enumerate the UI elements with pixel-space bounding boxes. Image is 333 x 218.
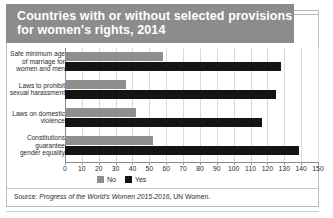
gridline (318, 48, 319, 162)
x-axis-tick-label: 150 (308, 165, 328, 172)
chart-title-line-1: Countries with or without selected provi… (17, 9, 285, 23)
legend-item-no[interactable]: No (97, 176, 116, 183)
source-suffix: , UN Women. (169, 193, 210, 200)
chart-title-line-2: for women's rights, 2014 (17, 23, 165, 37)
source-title: Progress of the World's Women 2015-2016 (39, 193, 169, 200)
category-label: Constitutionsguaranteegender equality (3, 134, 65, 157)
bar-no (65, 80, 126, 89)
category-label-line: guarantee (3, 142, 65, 150)
category-label-line: of marriage for (3, 58, 65, 66)
legend: NoYes (97, 176, 146, 183)
category-label-line: Constitutions (3, 134, 65, 142)
category-label-line: gender equality (3, 149, 65, 157)
legend-swatch-no-icon (97, 176, 104, 183)
category-label-line: women and men (3, 65, 65, 73)
chart-figure: Countries with or without selected provi… (0, 0, 333, 218)
x-axis-line (65, 162, 319, 163)
bar-yes (65, 62, 281, 71)
page-bottom-rule (6, 211, 319, 212)
bar-no (65, 52, 163, 61)
category-label-line: Safe minimum age (3, 50, 65, 58)
category-label-line: Laws on domestic (3, 110, 65, 118)
bar-no (65, 108, 136, 117)
source-note: Source: Progress of the World's Women 20… (14, 193, 210, 200)
category-label-line: sexual harassment (3, 89, 65, 97)
legend-label: Yes (135, 176, 146, 183)
legend-swatch-yes-icon (125, 176, 132, 183)
legend-item-yes[interactable]: Yes (125, 176, 146, 183)
legend-label: No (107, 176, 116, 183)
chart-title: Countries with or without selected provi… (6, 4, 294, 43)
category-label: Laws on domesticviolence (3, 110, 65, 125)
category-label: Laws to prohibitsexual harassment (3, 82, 65, 97)
category-label-line: Laws to prohibit (3, 82, 65, 90)
bar-no (65, 136, 153, 145)
gridline (284, 48, 285, 162)
category-label: Safe minimum ageof marriage forwomen and… (3, 50, 65, 73)
bar-yes (65, 118, 262, 127)
source-prefix: Source: (14, 193, 39, 200)
bar-yes (65, 90, 276, 99)
gridline (301, 48, 302, 162)
source-divider (7, 188, 318, 189)
category-label-line: violence (3, 117, 65, 125)
bar-yes (65, 146, 299, 155)
